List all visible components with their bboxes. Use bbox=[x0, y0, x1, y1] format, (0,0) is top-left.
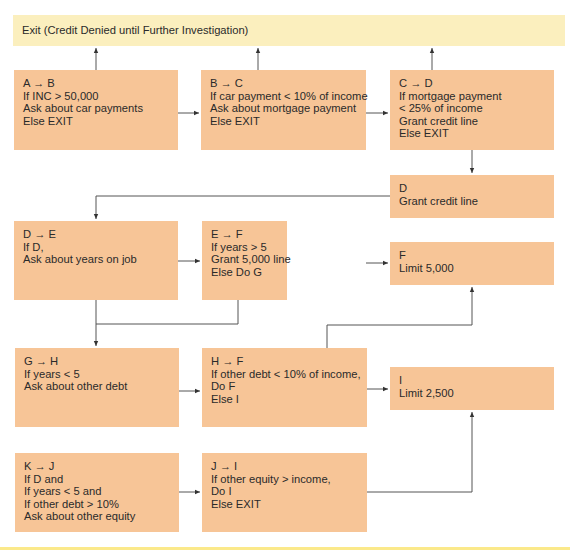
arrow-ji-to-i bbox=[367, 412, 472, 492]
arrow-hf-to-f bbox=[327, 287, 472, 348]
arrow-d-to-de bbox=[96, 196, 390, 219]
connector-de-ef-merge bbox=[96, 300, 238, 324]
connector-lines bbox=[0, 0, 570, 550]
